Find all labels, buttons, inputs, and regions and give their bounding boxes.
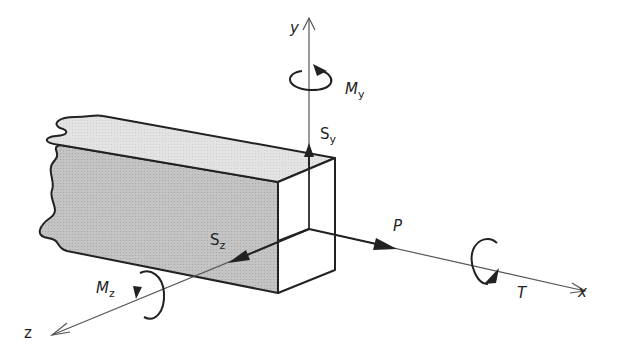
mz-arrowhead-icon bbox=[133, 286, 142, 299]
my-label: My bbox=[345, 80, 365, 101]
sy-label: Sy bbox=[320, 125, 337, 146]
p-arrowhead bbox=[373, 238, 397, 250]
mz-label: Mz bbox=[96, 279, 115, 300]
beam-diagram: y x z P T Sy Sz My Mz bbox=[0, 0, 621, 353]
cross-section-face bbox=[278, 158, 335, 293]
z-axis-label: z bbox=[24, 324, 32, 342]
sy-arrowhead bbox=[304, 143, 314, 157]
mz-moment-arc-icon bbox=[140, 271, 164, 318]
my-moment-arc-icon bbox=[290, 70, 331, 90]
t-label: T bbox=[517, 284, 528, 302]
p-label: P bbox=[393, 217, 403, 235]
my-arrowhead-icon bbox=[313, 64, 327, 76]
x-axis-label: x bbox=[577, 283, 587, 301]
y-axis-label: y bbox=[289, 19, 300, 37]
